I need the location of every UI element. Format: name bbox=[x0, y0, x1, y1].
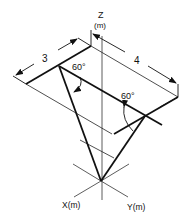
dimension-4-label: 4 bbox=[134, 55, 140, 66]
dim-3-arrow-left bbox=[16, 64, 34, 75]
dim-3-ext-right bbox=[78, 38, 91, 46]
y-axis-neg bbox=[101, 164, 129, 181]
angle-left-label: 60° bbox=[72, 62, 86, 72]
y-axis bbox=[101, 181, 128, 197]
z-axis-label: Z bbox=[98, 10, 104, 20]
x-axis-label: X(m) bbox=[62, 200, 81, 210]
coordinate-axes bbox=[73, 36, 129, 200]
dim-4-arrow-right bbox=[148, 66, 176, 83]
dim-4-arrow-top bbox=[93, 34, 125, 52]
x-axis-neg bbox=[73, 164, 101, 181]
angle-right-label: 60° bbox=[121, 91, 135, 101]
strut-right bbox=[101, 116, 145, 181]
diagram-canvas: 3 4 60° 60° Z (m) X(m) Y(m) bbox=[0, 0, 190, 222]
x-axis bbox=[74, 181, 101, 197]
z-axis-unit: (m) bbox=[94, 21, 106, 30]
plate-edge-right-top bbox=[91, 46, 178, 97]
y-axis-label: Y(m) bbox=[127, 202, 146, 212]
dim-3-ext-left bbox=[13, 76, 26, 84]
angle-arc-left bbox=[74, 77, 81, 92]
dim-3-arrow-right bbox=[58, 39, 77, 50]
plate-edge-bottom bbox=[80, 140, 114, 158]
dimension-3-label: 3 bbox=[42, 53, 48, 64]
